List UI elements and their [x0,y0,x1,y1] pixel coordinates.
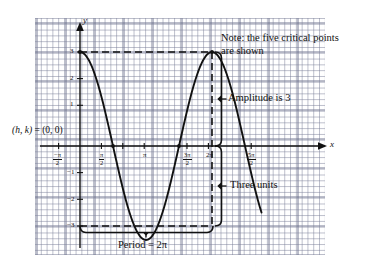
y-tick-neg1: −1 [67,169,74,176]
y-tick-neg2: −2 [67,196,74,203]
dashed-guides [80,52,212,226]
origin-annotation: (h, k) = (0, 0) [12,126,63,136]
axes-group [40,22,327,248]
three-units-bracket [215,146,227,226]
x-tick-neg-pi-over-2: −π 2 [53,150,62,167]
x-tick-neg-pi-over-2-denominator: 2 [53,160,62,167]
x-tick-pi: π [143,152,147,159]
amplitude-annotation: Amplitude is 3 [228,93,290,104]
period-bracket [80,226,213,238]
three-units-annotation: Three units [230,180,278,191]
y-tick-neg3: −3 [67,222,74,229]
critical-point-origin [78,50,82,54]
critical-point-x-int-1 [111,144,115,148]
x-tick-3pi-over-2: 3π 2 [183,150,192,167]
period-arrowhead [143,232,150,236]
x-tick-5pi-over-2: 5π 2 [247,150,256,167]
critical-point-x-int-2 [177,144,181,148]
three-units-arrowhead [217,183,221,190]
note-annotation-line2: are shown [221,46,264,57]
x-axis-arrowhead [318,142,327,150]
period-annotation: Period = 2π [118,240,167,251]
critical-point-2pi [210,50,214,54]
figure-root: y x 3 2 1 −1 −2 −3 −π 2 π 2 π 3π 2 2π 5π… [0,0,372,271]
x-tick-3pi-over-2-denominator: 2 [183,160,192,167]
x-tick-pi-over-2-denominator: 2 [99,160,104,167]
y-axis-label: y [83,16,87,25]
x-tick-5pi-over-2-denominator: 2 [247,160,256,167]
x-axis-label: x [330,140,334,149]
amplitude-bracket [215,52,227,146]
x-tick-2pi: 2π [206,152,213,159]
y-tick-2: 2 [70,75,74,82]
x-tick-pi-over-2: π 2 [99,150,104,167]
amplitude-arrowhead [217,96,221,103]
y-tick-3: 3 [70,48,74,55]
y-tick-1: 1 [70,101,74,108]
note-annotation-line1: Note: the five critical points [221,33,339,44]
